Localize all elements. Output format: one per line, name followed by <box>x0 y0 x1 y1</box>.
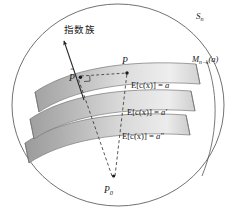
level-set-equation-a-prime: E[c(x)] = a′ <box>127 108 167 117</box>
point-label-p-hat: ˆP <box>69 74 75 84</box>
exponential-family-label: 指数族 <box>64 25 95 35</box>
diagram-vector-layer <box>0 0 240 212</box>
level-set-equation-a: E[c(x)] = a <box>131 81 169 90</box>
point-p0-subscript: 0 <box>110 189 113 196</box>
level-set-a-lhs: E[c(x)] = <box>131 80 163 90</box>
point-label-p: P <box>122 57 128 67</box>
hat-accent-icon: ˆ <box>71 69 74 77</box>
submanifold-label: Mn−k(a) <box>192 55 218 65</box>
point-label-p0: P0 <box>104 186 113 196</box>
submanifold-argument: (a) <box>208 54 218 64</box>
point-marker-p-hat <box>79 76 82 79</box>
figure-canvas: Sn Mn−k(a) 指数族 P ˆP P0 E[c(x)] = a E[c(x… <box>0 0 240 212</box>
level-set-equation-a-double-prime: E[c(x)] = a″ <box>122 132 164 141</box>
level-set-a-prime-lhs: E[c(x)] = <box>127 107 159 117</box>
ambient-space-label: Sn <box>196 12 204 22</box>
submanifold-arc <box>202 62 215 176</box>
level-set-a-dprime-mark: ″ <box>160 132 163 141</box>
level-set-a-prime-mark-2: ′ <box>165 108 167 117</box>
level-set-a-dprime-lhs: E[c(x)] = <box>122 131 154 141</box>
point-marker-p <box>125 71 128 74</box>
ambient-space-subscript: n <box>201 16 204 22</box>
level-set-a-rhs: a <box>165 80 169 90</box>
point-marker-p0 <box>112 174 115 177</box>
